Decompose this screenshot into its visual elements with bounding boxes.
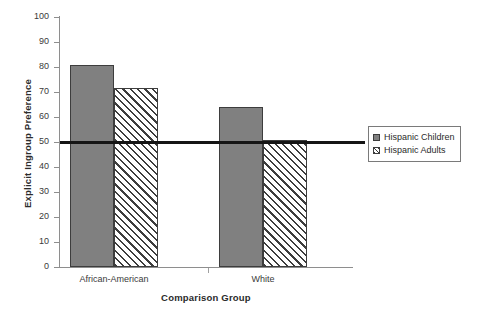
reference-line-50	[60, 141, 365, 144]
y-axis-title: Explicit Ingroup Preference	[22, 39, 33, 249]
y-axis-tick-mark	[54, 242, 59, 243]
bar	[114, 88, 158, 267]
chart-legend: Hispanic Children Hispanic Adults	[368, 126, 461, 162]
y-axis-tick-mark	[54, 167, 59, 168]
solid-swatch-icon	[373, 134, 380, 141]
x-axis-category-label: African-American	[44, 274, 184, 284]
y-axis-tick-mark	[54, 42, 59, 43]
y-axis-tick-label: 0	[44, 261, 49, 272]
legend-item-hispanic-children: Hispanic Children	[373, 131, 455, 144]
y-axis-tick-label: 50	[39, 136, 49, 147]
y-axis-tick-mark	[54, 217, 59, 218]
y-axis-tick-mark	[54, 192, 59, 193]
legend-label: Hispanic Adults	[384, 145, 446, 156]
y-axis-tick-label: 90	[39, 36, 49, 47]
x-axis-line	[59, 267, 353, 268]
y-axis-tick-mark	[54, 17, 59, 18]
y-axis-tick-label: 100	[34, 11, 49, 22]
x-axis-category-label: White	[193, 274, 333, 284]
y-axis-tick-label: 80	[39, 61, 49, 72]
bar	[263, 140, 307, 268]
y-axis-tick-mark	[54, 67, 59, 68]
bar	[70, 65, 114, 268]
hatched-swatch-icon	[373, 147, 380, 154]
y-axis-tick-mark	[54, 117, 59, 118]
y-axis-tick-label: 10	[39, 236, 49, 247]
y-axis-tick-mark	[54, 267, 59, 268]
y-axis-tick-label: 20	[39, 211, 49, 222]
y-axis-tick-mark	[54, 92, 59, 93]
x-axis-separator-tick	[208, 268, 209, 273]
y-axis-tick-label: 40	[39, 161, 49, 172]
bar-chart: Explicit Ingroup Preference 010203040506…	[0, 0, 477, 324]
y-axis-tick-label: 60	[39, 111, 49, 122]
legend-item-hispanic-adults: Hispanic Adults	[373, 144, 455, 157]
y-axis-tick-mark	[54, 142, 59, 143]
y-axis-tick-label: 30	[39, 186, 49, 197]
y-axis-tick-label: 70	[39, 86, 49, 97]
bar	[219, 107, 263, 267]
x-axis-title: Comparison Group	[60, 292, 352, 303]
legend-label: Hispanic Children	[384, 132, 455, 143]
